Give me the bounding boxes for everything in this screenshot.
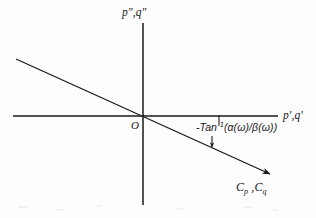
plot-svg — [0, 0, 316, 218]
vector-label-cq: C — [254, 180, 262, 194]
vector-label-cq-sub: q — [263, 187, 267, 196]
x-axis-label: p',q' — [283, 110, 303, 122]
y-axis-label: p",q" — [122, 7, 147, 19]
angle-annotation-exponent: -1 — [217, 120, 224, 129]
angle-annotation-prefix: -Tan — [196, 121, 217, 133]
angle-annotation-argument: (α(ω)/β(ω)) — [224, 121, 277, 133]
vector-label-cp-sub: p — [244, 187, 248, 196]
vector-label-cp: C — [236, 180, 244, 194]
angle-annotation-label: -Tan-1(α(ω)/β(ω)) — [196, 122, 277, 133]
origin-label: O — [131, 120, 139, 131]
figure-canvas: p",q" p',q' O -Tan-1(α(ω)/β(ω)) Cp ,Cq — [0, 0, 316, 218]
vector-label: Cp ,Cq — [236, 181, 267, 193]
